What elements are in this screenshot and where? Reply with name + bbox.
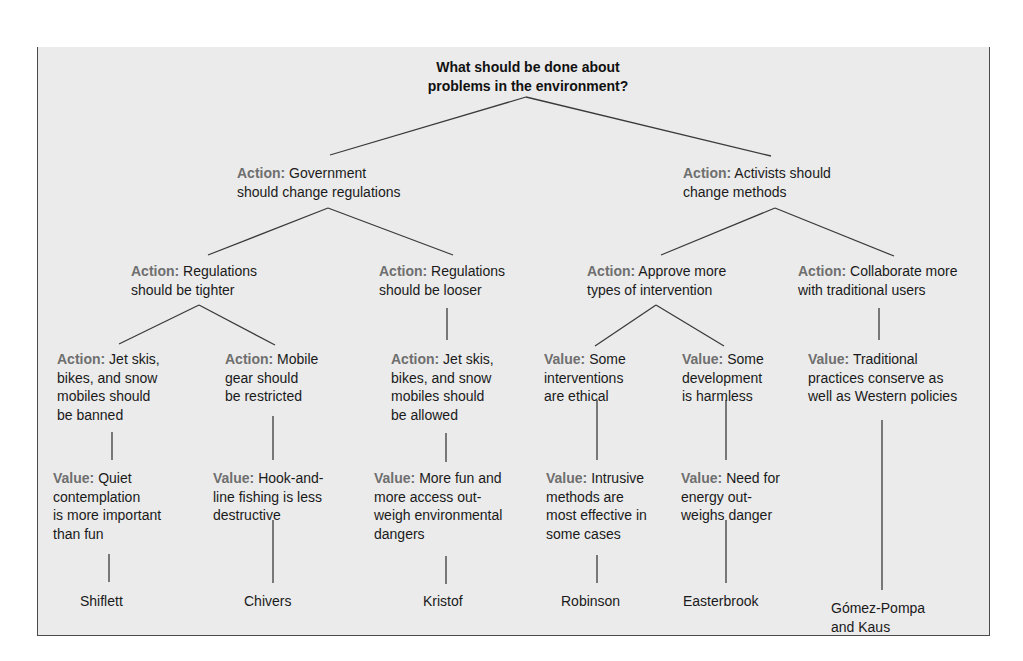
node-regulations-tighter: Action: Regulations should be tighter	[131, 262, 257, 299]
node-text: be banned	[57, 406, 160, 425]
author-name: Shiflett	[80, 592, 123, 611]
node-intrusive-methods: Value: Intrusive methods are most effect…	[546, 469, 647, 543]
action-label: Action:	[587, 263, 635, 279]
node-text: Government	[285, 165, 366, 181]
node-text: development	[682, 369, 764, 388]
action-label: Action:	[798, 263, 846, 279]
node-text: Activists should	[731, 165, 831, 181]
action-label: Action:	[683, 165, 731, 181]
action-label: Action:	[57, 351, 105, 367]
value-label: Value:	[53, 470, 94, 486]
value-label: Value:	[374, 470, 415, 486]
node-text: Collaborate more	[846, 263, 957, 279]
node-text: weigh environmental	[374, 506, 502, 525]
author-name: Chivers	[244, 592, 291, 611]
author-name: Kristof	[423, 592, 463, 611]
node-text: Jet skis,	[439, 351, 493, 367]
author-name: Robinson	[561, 592, 620, 611]
node-activists-change-methods: Action: Activists should change methods	[683, 164, 831, 201]
node-text: destructive	[213, 506, 324, 525]
node-text: be allowed	[391, 406, 494, 425]
value-label: Value:	[544, 351, 585, 367]
node-hook-and-line: Value: Hook-and- line fishing is less de…	[213, 469, 324, 525]
root-question: What should be done about problems in th…	[398, 58, 658, 95]
node-text: some cases	[546, 525, 647, 544]
node-text: More fun and	[415, 470, 501, 486]
node-text: should be looser	[379, 281, 505, 300]
value-label: Value:	[546, 470, 587, 486]
node-text: is more important	[53, 506, 161, 525]
author-shiflett: Shiflett	[80, 592, 123, 611]
node-text: with traditional users	[798, 281, 958, 300]
node-text: dangers	[374, 525, 502, 544]
node-text: energy out-	[681, 488, 780, 507]
author-gomez-pompa-and-kaus: Gómez-Pompa and Kaus	[831, 599, 925, 636]
author-name: Gómez-Pompa	[831, 599, 925, 618]
root-line-2: problems in the environment?	[398, 77, 658, 96]
node-text: mobiles should	[57, 387, 160, 406]
node-text: Traditional	[849, 351, 917, 367]
action-label: Action:	[391, 351, 439, 367]
node-text: Jet skis,	[105, 351, 159, 367]
node-text: interventions	[544, 369, 626, 388]
node-text: more access out-	[374, 488, 502, 507]
node-mobile-gear-restricted: Action: Mobile gear should be restricted	[225, 350, 318, 406]
diagram-frame	[37, 47, 990, 636]
author-kristof: Kristof	[423, 592, 463, 611]
author-name: and Kaus	[831, 618, 925, 637]
node-text: contemplation	[53, 488, 161, 507]
action-label: Action:	[131, 263, 179, 279]
root-line-1: What should be done about	[398, 58, 658, 77]
node-traditional-practices: Value: Traditional practices conserve as…	[808, 350, 957, 406]
node-text: bikes, and snow	[57, 369, 160, 388]
author-name: Easterbrook	[683, 592, 758, 611]
node-text: Some	[723, 351, 763, 367]
node-text: be restricted	[225, 387, 318, 406]
node-text: Mobile	[273, 351, 318, 367]
node-text: line fishing is less	[213, 488, 324, 507]
node-development-harmless: Value: Some development is harmless	[682, 350, 764, 406]
value-label: Value:	[682, 351, 723, 367]
node-more-fun-access: Value: More fun and more access out- wei…	[374, 469, 502, 543]
node-text: bikes, and snow	[391, 369, 494, 388]
node-text: Regulations	[179, 263, 257, 279]
author-chivers: Chivers	[244, 592, 291, 611]
value-label: Value:	[213, 470, 254, 486]
author-easterbrook: Easterbrook	[683, 592, 758, 611]
action-label: Action:	[225, 351, 273, 367]
value-label: Value:	[808, 351, 849, 367]
node-jetskis-allowed: Action: Jet skis, bikes, and snow mobile…	[391, 350, 494, 424]
node-interventions-ethical: Value: Some interventions are ethical	[544, 350, 626, 406]
node-text: practices conserve as	[808, 369, 957, 388]
node-text: methods are	[546, 488, 647, 507]
node-text: Need for	[722, 470, 780, 486]
node-text: change methods	[683, 183, 831, 202]
node-text: should be tighter	[131, 281, 257, 300]
node-text: Hook-and-	[254, 470, 323, 486]
node-text: Some	[585, 351, 625, 367]
node-text: than fun	[53, 525, 161, 544]
node-text: Approve more	[635, 263, 726, 279]
node-text: mobiles should	[391, 387, 494, 406]
node-government-change-regulations: Action: Government should change regulat…	[237, 164, 400, 201]
author-robinson: Robinson	[561, 592, 620, 611]
action-label: Action:	[379, 263, 427, 279]
node-text: most effective in	[546, 506, 647, 525]
node-collaborate-traditional: Action: Collaborate more with traditiona…	[798, 262, 958, 299]
node-text: should change regulations	[237, 183, 400, 202]
node-approve-intervention: Action: Approve more types of interventi…	[587, 262, 726, 299]
node-text: gear should	[225, 369, 318, 388]
node-regulations-looser: Action: Regulations should be looser	[379, 262, 505, 299]
node-text: Regulations	[427, 263, 505, 279]
value-label: Value:	[681, 470, 722, 486]
node-text: weighs danger	[681, 506, 780, 525]
node-jetskis-banned: Action: Jet skis, bikes, and snow mobile…	[57, 350, 160, 424]
node-text: are ethical	[544, 387, 626, 406]
node-text: Intrusive	[587, 470, 644, 486]
node-text: is harmless	[682, 387, 764, 406]
node-text: Quiet	[94, 470, 131, 486]
node-text: well as Western policies	[808, 387, 957, 406]
node-quiet-contemplation: Value: Quiet contemplation is more impor…	[53, 469, 161, 543]
action-label: Action:	[237, 165, 285, 181]
node-text: types of intervention	[587, 281, 726, 300]
